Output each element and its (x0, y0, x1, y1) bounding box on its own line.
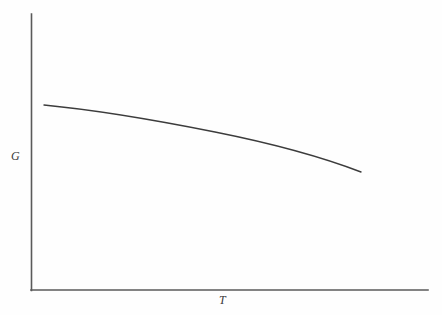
data-curve-g-vs-t (44, 105, 361, 172)
plot-area (0, 0, 442, 315)
x-axis-label: T (219, 294, 226, 306)
y-axis-label: G (11, 150, 20, 162)
chart-figure: G T (0, 0, 442, 315)
